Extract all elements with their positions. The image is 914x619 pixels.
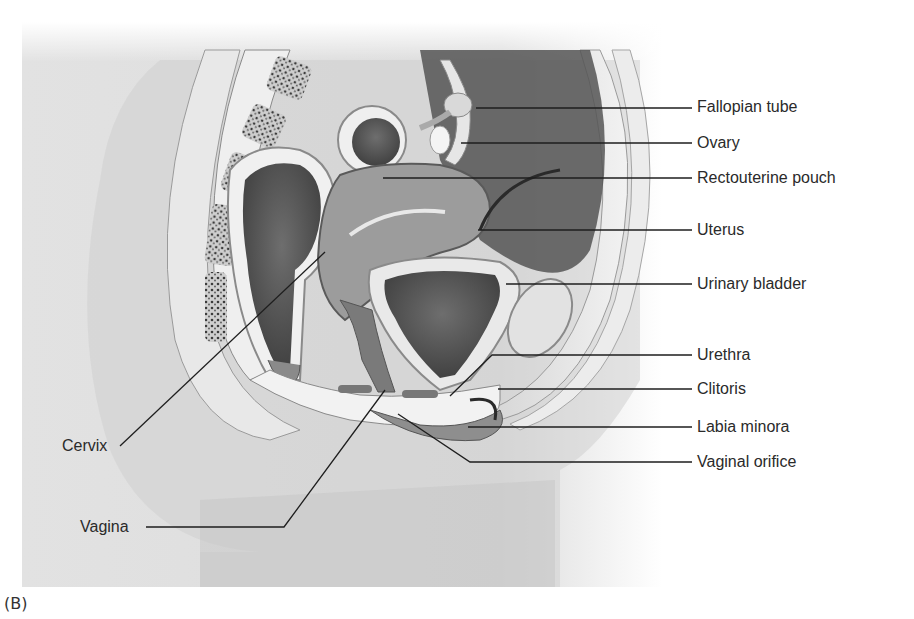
label-cervix: Cervix <box>62 437 107 455</box>
figure-caption: (B) <box>4 594 27 613</box>
label-urinary-bladder: Urinary bladder <box>697 275 806 293</box>
leader-line-urethra <box>450 355 692 396</box>
label-fallopian-tube: Fallopian tube <box>697 98 798 116</box>
label-clitoris: Clitoris <box>697 380 746 398</box>
leader-line-vagina <box>146 390 385 527</box>
label-vagina: Vagina <box>80 518 129 536</box>
label-urethra: Urethra <box>697 346 750 364</box>
leader-lines <box>0 0 914 619</box>
leader-line-cervix <box>120 252 325 446</box>
label-rectouterine-pouch: Rectouterine pouch <box>697 169 836 187</box>
label-uterus: Uterus <box>697 221 744 239</box>
label-labia-minora: Labia minora <box>697 418 790 436</box>
label-ovary: Ovary <box>697 134 740 152</box>
anatomy-figure: Fallopian tube Ovary Rectouterine pouch … <box>0 0 914 619</box>
leader-line-vaginal-orifice <box>398 414 692 462</box>
label-vaginal-orifice: Vaginal orifice <box>697 453 796 471</box>
